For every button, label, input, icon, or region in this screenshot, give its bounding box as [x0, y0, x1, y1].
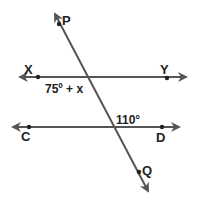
point-x	[36, 75, 40, 79]
point-label-p: P	[62, 13, 71, 28]
point-q	[137, 170, 141, 174]
lines-layer	[13, 14, 186, 191]
point-label-y: Y	[160, 62, 169, 77]
point-label-q: Q	[142, 163, 152, 178]
point-d	[160, 125, 164, 129]
points-layer	[27, 22, 169, 174]
line-pq	[55, 14, 148, 191]
labels-layer: PXYCDQ75º + x110°	[21, 13, 169, 178]
angle-label-1: 75º + x	[45, 82, 83, 96]
point-p	[57, 22, 61, 26]
point-label-d: D	[156, 130, 165, 145]
point-label-c: C	[21, 129, 31, 144]
geometry-diagram: PXYCDQ75º + x110°	[0, 0, 198, 202]
angle-label-2: 110°	[116, 113, 140, 127]
point-label-x: X	[24, 62, 33, 77]
